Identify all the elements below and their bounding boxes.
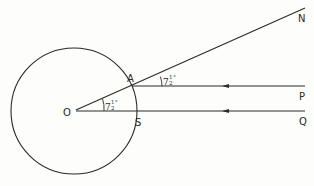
point-label-S: S: [135, 117, 141, 128]
point-label-O: O: [63, 107, 71, 118]
svg-text:2: 2: [111, 105, 115, 111]
point-label-N: N: [298, 13, 305, 24]
arrow-icon-AP: [222, 84, 229, 88]
angle-label-O: 7 1 2 °: [105, 99, 118, 112]
arrow-icon-OQ: [222, 109, 229, 113]
svg-text:°: °: [115, 99, 118, 105]
point-label-Q: Q: [299, 116, 307, 127]
angle-arc-O: [103, 99, 105, 111]
point-label-A: A: [127, 73, 134, 84]
svg-text:°: °: [173, 74, 176, 80]
geometry-diagram: 7 1 2 ° 7 1 2 ° O A S N P Q: [0, 0, 314, 186]
angle-arc-A: [160, 77, 162, 86]
point-label-P: P: [299, 91, 305, 102]
diagram-canvas: 7 1 2 ° 7 1 2 ° O A S N P Q: [0, 0, 314, 186]
angle-label-A: 7 1 2 °: [163, 74, 176, 87]
svg-text:2: 2: [169, 80, 173, 86]
